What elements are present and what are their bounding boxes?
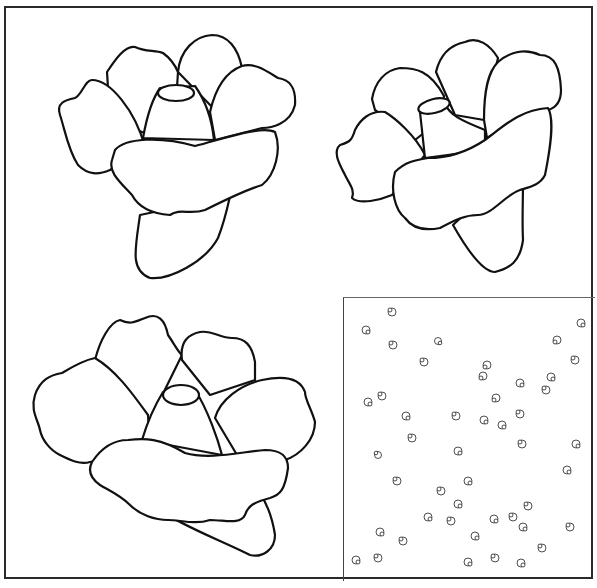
pattern-bottom-right	[352, 308, 585, 567]
flower-top-left	[59, 35, 295, 278]
flower-illustrations	[0, 0, 597, 588]
flower-bottom-left	[33, 316, 315, 556]
flower-top-right	[337, 40, 561, 272]
